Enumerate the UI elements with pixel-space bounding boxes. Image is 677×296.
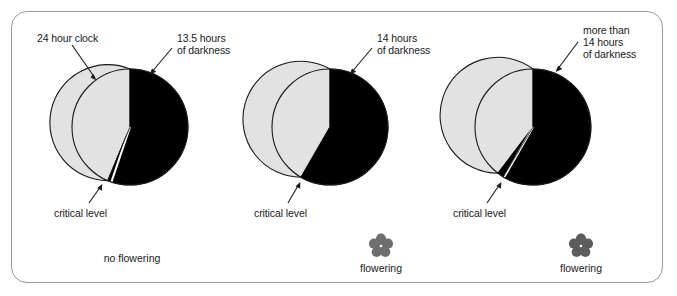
chart1-darkness-label-line2: of darkness xyxy=(177,44,230,57)
chart3-darkness-label-line1: more than xyxy=(583,24,629,37)
flower-icon-chart3 xyxy=(569,234,593,257)
chart3-darkness-label-line3: of darkness xyxy=(583,48,636,61)
pie-3-darkness-leader xyxy=(557,42,578,70)
chart2-caption: flowering xyxy=(341,262,421,275)
pie-1-darkness-leader xyxy=(151,48,172,73)
chart3-darkness-label-line2: 14 hours xyxy=(583,36,623,49)
chart1-caption: no flowering xyxy=(72,252,192,265)
pie-2-darkness-leader xyxy=(351,48,372,73)
pie-3-darkness-arrowhead xyxy=(556,66,563,72)
chart2-darkness-label-line1: 14 hours xyxy=(377,32,417,45)
pie-chart-3 xyxy=(440,42,591,203)
chart1-clock-label: 24 hour clock xyxy=(37,32,98,45)
chart3-critical-label: critical level xyxy=(453,207,506,220)
pie-chart-2 xyxy=(243,48,388,203)
chart2-critical-label: critical level xyxy=(254,207,307,220)
chart2-darkness-label-line2: of darkness xyxy=(377,44,430,57)
chart1-darkness-label-line1: 13.5 hours xyxy=(177,32,226,45)
figure-root: 24 hour clock 13.5 hours of darkness cri… xyxy=(0,0,677,296)
chart3-caption: flowering xyxy=(541,262,621,275)
pie-chart-1 xyxy=(50,45,188,203)
flower-icon-chart2 xyxy=(369,234,393,257)
chart1-critical-label: critical level xyxy=(54,207,107,220)
